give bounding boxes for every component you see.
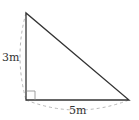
triangle	[26, 13, 129, 100]
horizontal-side-label: 5m	[69, 104, 87, 117]
vertical-dimension-arc	[20, 13, 26, 100]
right-triangle-diagram: 3m 5m	[0, 0, 139, 120]
right-angle-marker	[26, 91, 35, 100]
vertical-side-label: 3m	[2, 51, 20, 64]
